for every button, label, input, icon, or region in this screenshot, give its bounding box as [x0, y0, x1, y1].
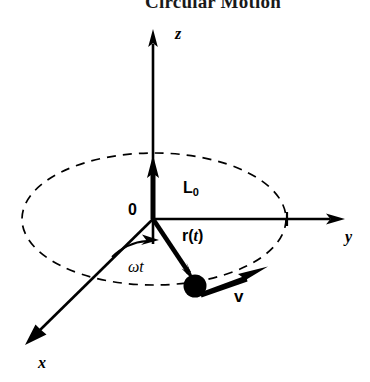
position-vector-label-close: )	[198, 227, 203, 244]
omega-t-label: ωt	[128, 259, 144, 275]
y-axis-label: y	[345, 229, 352, 245]
position-vector-label: r(t)	[182, 228, 203, 244]
position-vector-label-base: r(	[182, 227, 194, 244]
figure-canvas: Circular Motion z y x 0	[0, 0, 370, 382]
x-axis-label: x	[38, 355, 46, 371]
omega-t-angle-arrowhead	[141, 235, 159, 246]
angular-momentum-label-subscript: 0	[193, 186, 199, 198]
angular-momentum-label-base: L	[183, 179, 193, 196]
z-axis-label: z	[175, 26, 181, 42]
angular-momentum-label: L0	[183, 180, 199, 196]
velocity-vector-label: v	[234, 288, 243, 305]
origin-label: 0	[128, 202, 137, 218]
orbiting-particle	[184, 275, 207, 298]
